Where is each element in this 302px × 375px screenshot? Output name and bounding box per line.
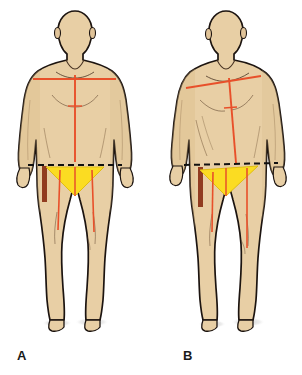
hand bbox=[170, 166, 183, 186]
lateral-reference-band bbox=[42, 166, 47, 202]
ear bbox=[90, 28, 96, 39]
panel-label-b: B bbox=[183, 348, 193, 363]
foot bbox=[85, 320, 100, 331]
left-thigh-line bbox=[212, 172, 213, 232]
foot bbox=[49, 320, 64, 331]
ear bbox=[206, 29, 212, 40]
anatomy-illustration-board bbox=[0, 0, 302, 375]
ear bbox=[55, 28, 61, 39]
foot bbox=[202, 320, 217, 331]
foot bbox=[238, 320, 253, 331]
ear bbox=[241, 28, 247, 39]
illustration-svg bbox=[0, 0, 302, 375]
hand bbox=[273, 167, 286, 187]
lateral-reference-band bbox=[198, 167, 203, 207]
panel-label-a: A bbox=[17, 348, 27, 363]
sternal-tick-mark bbox=[224, 107, 237, 108]
hand bbox=[17, 168, 30, 188]
hand bbox=[120, 168, 133, 188]
